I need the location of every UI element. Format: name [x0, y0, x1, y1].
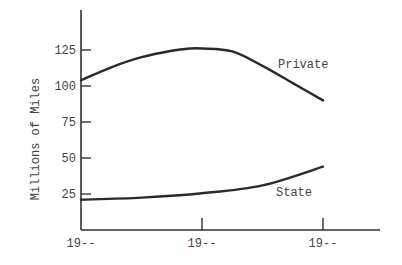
line-chart: 255075100125 19--19--19-- Millions of Mi… — [0, 0, 402, 265]
y-axis-ticks: 255075100125 — [54, 44, 91, 202]
y-tick-label: 50 — [62, 152, 76, 166]
y-tick-label: 75 — [62, 116, 76, 130]
y-tick-label: 25 — [62, 188, 76, 202]
y-axis-title: Millions of Miles — [29, 78, 43, 200]
x-tick-label: 19-- — [309, 237, 338, 251]
y-tick-label: 125 — [54, 44, 76, 58]
x-tick-label: 19-- — [188, 237, 217, 251]
x-axis-ticks: 19--19--19-- — [67, 218, 338, 251]
series-line-private — [81, 48, 323, 100]
series-label-private: Private — [278, 58, 328, 72]
series-label-state: State — [276, 186, 312, 200]
x-tick-label: 19-- — [67, 237, 96, 251]
axes — [81, 10, 380, 230]
y-tick-label: 100 — [54, 80, 76, 94]
